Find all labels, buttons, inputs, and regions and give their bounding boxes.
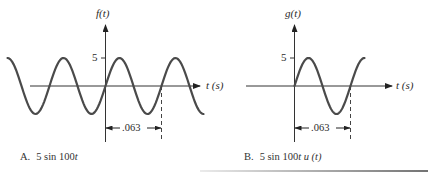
caption-expr-a: 5 sin 100 [36, 151, 75, 162]
bottom-rule [200, 170, 428, 172]
graph-a [8, 25, 204, 142]
caption-letter-b: B. [244, 151, 254, 162]
caption-a: A.5 sin 100t [20, 151, 78, 162]
caption-var-b: t u (t) [298, 151, 321, 162]
period-label-b: .063 [311, 122, 329, 133]
x-axis-label-a: t (s) [206, 79, 223, 91]
period-label-a: .063 [122, 122, 140, 133]
caption-letter-a: A. [20, 151, 30, 162]
y-axis-label-a: f(t) [96, 7, 109, 19]
y-tick-label-5-b: 5 [281, 51, 287, 63]
caption-var-a: t [75, 151, 78, 162]
caption-b: B.5 sin 100t u (t) [244, 151, 321, 162]
caption-expr-b: 5 sin 100 [260, 151, 299, 162]
y-axis-label-b: g(t) [285, 7, 301, 19]
x-axis-label-b: t (s) [396, 79, 413, 91]
y-tick-label-5-a: 5 [92, 51, 98, 63]
